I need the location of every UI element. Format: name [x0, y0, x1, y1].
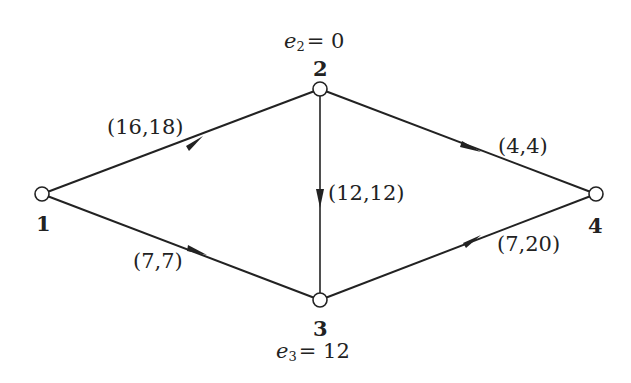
node-3	[313, 293, 327, 307]
node-label-1: 1	[36, 213, 51, 234]
node-label-2: 2	[313, 58, 328, 79]
edge-label-2-3: (12,12)	[328, 183, 405, 204]
node-label-3: 3	[313, 318, 328, 339]
flow-network-diagram: 1 2 3 4 e2 = 0 e3 = 12 (16,18) (7,7) (12…	[0, 0, 631, 383]
node-4	[589, 187, 603, 201]
excess-sub: 2	[296, 39, 304, 54]
edge-2-3	[316, 89, 324, 300]
edge-2-4	[320, 89, 596, 194]
edge-label-2-4: (4,4)	[498, 136, 548, 157]
node-1	[35, 187, 49, 201]
node-label-4: 4	[588, 215, 603, 236]
excess-sub: 3	[288, 349, 296, 364]
edge-1-2	[42, 89, 320, 194]
edge-1-3	[42, 194, 320, 300]
excess-value: = 0	[307, 29, 345, 53]
node-2	[313, 82, 327, 96]
arrow-icon	[316, 189, 324, 208]
excess-var: e	[276, 339, 288, 363]
edge-label-1-2: (16,18)	[107, 117, 184, 138]
edge-label-3-4: (7,20)	[497, 234, 560, 255]
excess-var: e	[284, 29, 296, 53]
edge-label-1-3: (7,7)	[133, 251, 183, 272]
arrow-icon	[460, 141, 481, 152]
arrow-icon	[463, 235, 481, 248]
excess-label-node-3: e3 = 12	[276, 341, 350, 363]
excess-value: = 12	[299, 339, 350, 363]
excess-label-node-2: e2 = 0	[284, 31, 344, 53]
